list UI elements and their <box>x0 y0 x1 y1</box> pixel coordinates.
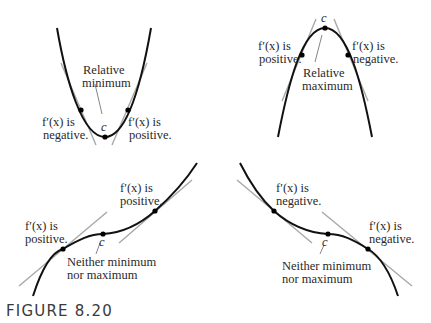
tangent-point-left <box>78 107 83 112</box>
tangent-point-right <box>152 208 157 213</box>
critical-point-c <box>322 25 327 30</box>
panel-title-line1: Neither minimum <box>67 255 156 269</box>
right-label-line1: f′(x) is <box>120 181 153 195</box>
panel-relative-minimum: Relative minimum c f′(x) is negative. f′… <box>42 28 172 145</box>
tangent-point-right <box>365 246 370 251</box>
figure-canvas: Relative minimum c f′(x) is negative. f′… <box>0 0 431 323</box>
right-label-line1: f′(x) is <box>369 219 402 233</box>
left-label-line1: f′(x) is <box>258 39 291 53</box>
leader-line <box>315 35 322 62</box>
point-label-c: c <box>322 235 328 249</box>
right-label-line1: f′(x) is <box>352 39 385 53</box>
figure-caption: FIGURE 8.20 <box>6 302 113 320</box>
panel-title-line2: nor maximum <box>282 272 353 286</box>
panel-title-line1: Relative <box>303 66 345 80</box>
tangent-point-right <box>125 107 130 112</box>
tangent-point-left <box>271 208 276 213</box>
right-label-line2: negative. <box>369 232 414 246</box>
panel-decreasing-inflection: c Neither minimum nor maximum f′(x) is n… <box>237 163 414 296</box>
right-label-line2: positive. <box>120 194 163 208</box>
panel-title-line2: nor maximum <box>67 268 138 282</box>
point-label-c: c <box>101 120 107 134</box>
left-label-line1: f′(x) is <box>276 181 309 195</box>
left-label-line2: negative. <box>43 128 88 142</box>
tangent-point-left <box>60 246 65 251</box>
right-label-line2: positive. <box>129 128 172 142</box>
right-label-line1: f′(x) is <box>128 115 161 129</box>
critical-point-c <box>102 134 107 139</box>
panel-title-line1: Relative <box>83 63 125 77</box>
left-label-line2: negative. <box>276 194 321 208</box>
point-label-c: c <box>321 11 327 25</box>
left-label-line1: f′(x) is <box>25 219 58 233</box>
left-label-line2: positive. <box>259 52 302 66</box>
panel-relative-maximum: c Relative maximum f′(x) is positive. f′… <box>258 11 398 137</box>
panel-title-line2: minimum <box>82 76 131 90</box>
left-label-line1: f′(x) is <box>42 115 75 129</box>
left-label-line2: positive. <box>25 232 68 246</box>
tangent-point-right <box>345 52 350 57</box>
right-label-line2: negative. <box>353 52 398 66</box>
panel-increasing-inflection: c Neither minimum nor maximum f′(x) is p… <box>19 163 197 296</box>
panel-title-line2: maximum <box>302 79 353 93</box>
point-label-c: c <box>99 235 105 249</box>
panel-title-line1: Neither minimum <box>282 259 371 273</box>
